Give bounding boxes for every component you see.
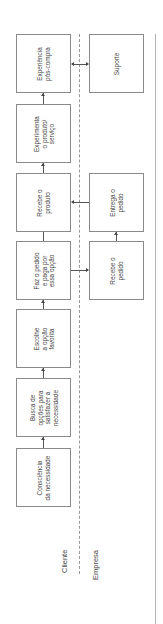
arrow-left-icon: [71, 200, 74, 204]
arrow-right-icon: [86, 268, 89, 272]
arrow-up-icon: [114, 232, 118, 235]
lane-boundary-line: [155, 34, 156, 624]
step-label: Consciência da necessidade: [36, 449, 51, 507]
step-label: Busca de opções para satisfazer a necess…: [28, 379, 58, 437]
step-label: Recebe o produto: [36, 174, 51, 232]
step-label: Suporte: [113, 35, 121, 93]
step-label: Entrega o pedido: [109, 174, 124, 232]
step-busca-opcoes: Busca de opções para satisfazer a necess…: [16, 378, 71, 437]
arrow-left-icon: [71, 62, 74, 66]
arrow-right-icon: [86, 62, 89, 66]
lane-label-empresa: Empresa: [91, 550, 100, 580]
step-recebe-produto: Recebe o produto: [16, 173, 71, 232]
arrow-up-icon: [41, 368, 45, 371]
step-label: Escolhe a opção favorita: [32, 310, 55, 368]
step-entrega-pedido: Entrega o pedido: [89, 173, 144, 232]
step-label: Experimenta o produto/ serviço: [32, 105, 55, 163]
arrow-up-icon: [41, 163, 45, 166]
step-label: Experiência pós-compra: [36, 35, 51, 93]
arrow-up-icon: [41, 437, 45, 440]
lane-divider-dashed: [79, 34, 80, 574]
connector-c4-e1: [71, 270, 87, 271]
step-escolhe-opcao: Escolhe a opção favorita: [16, 309, 71, 368]
step-experiencia-pos-compra: Experiência pós-compra: [16, 34, 71, 93]
step-suporte: Suporte: [89, 34, 144, 93]
step-recebe-pedido: Recebe o pedido: [89, 241, 144, 300]
step-consciencia-necessidade: Consciência da necessidade: [16, 448, 71, 507]
step-faz-pedido: Faz o pedido e paga por essa opção: [16, 241, 71, 300]
connector-c5-c6-base: [43, 232, 44, 241]
arrow-up-icon: [41, 93, 45, 96]
connector-c7-e3: [74, 64, 86, 65]
step-label: Faz o pedido e paga por essa opção: [32, 242, 55, 300]
step-experimenta-produto: Experimenta o produto/ serviço: [16, 104, 71, 163]
connector-e2-c5: [73, 202, 89, 203]
lane-label-cliente: Cliente: [60, 550, 69, 573]
step-label: Recebe o pedido: [109, 242, 124, 300]
arrow-up-icon: [41, 300, 45, 303]
